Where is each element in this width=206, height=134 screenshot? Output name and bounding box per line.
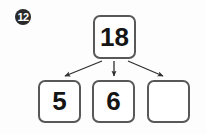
whole-number-box[interactable]: 18 [93, 15, 136, 59]
problem-number-badge: 12 [15, 9, 31, 25]
part-box-3-blank[interactable] [147, 80, 190, 123]
part-box-1[interactable]: 5 [38, 80, 81, 123]
part-box-2[interactable]: 6 [92, 80, 135, 123]
arrow-right [128, 61, 163, 76]
worksheet-problem: 12 18 5 6 [0, 0, 206, 134]
arrow-left [65, 61, 102, 76]
